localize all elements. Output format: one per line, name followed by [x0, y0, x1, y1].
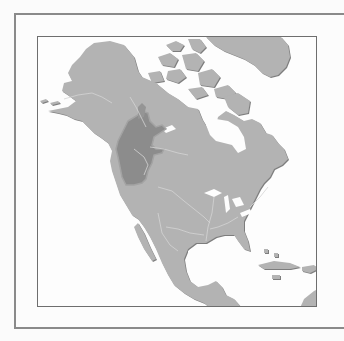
jamaica	[272, 275, 280, 279]
greenland	[206, 37, 290, 77]
arctic-island	[188, 87, 208, 99]
gulf-of-mexico	[188, 241, 240, 283]
bahamas	[264, 249, 268, 253]
map-frame	[37, 36, 317, 307]
cuba	[258, 261, 300, 269]
arctic-island	[188, 39, 206, 53]
south-america-corner	[300, 289, 317, 307]
aleutian-islands	[50, 101, 60, 105]
arctic-island	[166, 41, 184, 51]
landmass	[40, 37, 317, 307]
arctic-island	[182, 53, 204, 71]
aleutian-islands	[40, 99, 48, 103]
arctic-island	[158, 53, 178, 67]
hispaniola	[302, 265, 317, 273]
arctic-island	[166, 69, 186, 83]
mainland	[48, 41, 288, 307]
bahamas	[274, 253, 278, 257]
arctic-island	[198, 69, 220, 87]
north-america-map	[38, 37, 317, 307]
baffin-island	[224, 93, 250, 115]
